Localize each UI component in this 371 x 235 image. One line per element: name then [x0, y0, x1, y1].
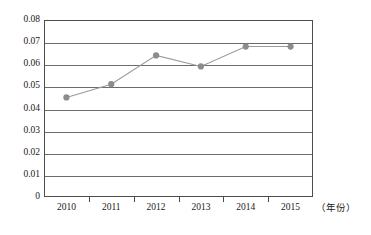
gridline	[45, 110, 312, 111]
gridline	[45, 87, 312, 88]
gridline	[45, 43, 312, 44]
x-axis-title: （年份）	[316, 202, 356, 213]
line-chart-figure: 0.080.070.060.050.040.030.020.010 201020…	[0, 0, 371, 235]
gridline	[45, 65, 312, 66]
y-axis-tick-label: 0.03	[0, 126, 40, 136]
y-axis-tick-label: 0.06	[0, 60, 40, 70]
gridline	[45, 176, 312, 177]
y-axis-tick-label: 0	[0, 192, 40, 202]
gridline	[45, 154, 312, 155]
y-axis-tick-label: 0.08	[0, 15, 40, 25]
y-axis-tick-label: 0.04	[0, 104, 40, 114]
y-axis-tick-label: 0.02	[0, 148, 40, 158]
plot-area	[44, 20, 313, 197]
y-axis-tick-label: 0.05	[0, 82, 40, 92]
x-axis-tick-label: 2015	[261, 202, 321, 213]
y-axis-tick-label: 0.07	[0, 37, 40, 47]
y-axis-tick-label: 0.01	[0, 170, 40, 180]
gridline	[45, 132, 312, 133]
